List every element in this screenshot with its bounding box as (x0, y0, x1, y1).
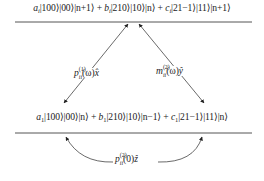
bottom-level-equation: a1|100⟩|00⟩|n⟩ + b1|210⟩|10⟩|n−1⟩ + c1|2… (0, 111, 264, 123)
p-z-label: p(2)ii(0)ẑ (115, 154, 138, 164)
m-y-arrow (139, 24, 204, 103)
p-x-arrow (64, 24, 128, 103)
m-y-label: m(2)ii(ω)ŷ (155, 66, 184, 76)
p-x-label: p(1)ii(ω)x̂ (73, 68, 100, 78)
top-level-equation: ai|100⟩|00⟩|n+1⟩ + bi|210⟩|10⟩|n⟩ + ci|2… (0, 2, 264, 14)
